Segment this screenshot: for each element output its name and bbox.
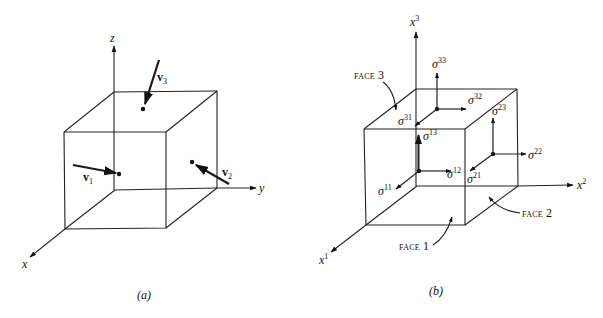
figure-a: z y x v3 v1 v2 (a) <box>21 31 265 302</box>
sigma13-label: σ13 <box>423 128 437 143</box>
sigma21-arrow <box>470 154 493 171</box>
sigma31-label: σ31 <box>398 113 412 128</box>
face3-label: FACE3 <box>354 68 384 82</box>
x1-axis-label: x1 <box>318 252 328 267</box>
v1-point <box>117 172 121 176</box>
sigma22-label: σ22 <box>528 147 542 162</box>
v2-label: v2 <box>222 165 232 181</box>
sigma11-label: σ11 <box>378 183 392 198</box>
x1-axis <box>331 225 366 252</box>
caption-a: (a) <box>137 288 151 302</box>
x2-axis-label: x2 <box>576 177 586 192</box>
sigma33-label: σ33 <box>432 56 446 71</box>
v3-point <box>141 107 145 111</box>
v1-label: v1 <box>83 170 93 186</box>
sigma23-label: σ23 <box>492 103 506 118</box>
sigma31-arrow <box>415 109 437 126</box>
sigma32-label: σ32 <box>468 92 482 107</box>
sigma12-label: σ12 <box>447 166 461 181</box>
v1-arrow <box>73 165 116 173</box>
v2-point <box>190 160 194 164</box>
diagram-canvas: z y x v3 v1 v2 (a) <box>0 0 603 318</box>
y-axis-label: y <box>258 181 265 195</box>
sigma21-label: σ21 <box>467 171 481 186</box>
face2-leader <box>489 197 520 213</box>
caption-b: (b) <box>429 284 443 298</box>
x2-axis <box>518 185 573 186</box>
figure-b: x3 x2 x1 σ33 σ32 σ31 σ13 σ12 σ11 σ23 σ22… <box>318 14 586 298</box>
x3-axis-label: x3 <box>409 14 419 29</box>
x-axis <box>30 229 65 257</box>
face2-label: FACE2 <box>522 206 552 220</box>
face1-label: FACE1 <box>399 239 429 253</box>
v3-label: v3 <box>157 70 167 86</box>
face1-leader <box>433 217 452 245</box>
x-axis-label: x <box>21 257 28 271</box>
cube-a <box>64 91 217 229</box>
z-axis-label: z <box>109 31 115 45</box>
